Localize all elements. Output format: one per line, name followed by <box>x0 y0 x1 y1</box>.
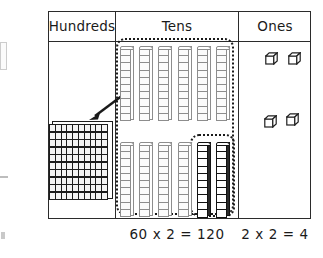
ten-rod-cap <box>120 142 134 146</box>
page-edge-artifact-dash <box>0 176 8 178</box>
ten-rod-unit <box>139 113 150 121</box>
ten-rod-cap <box>120 46 134 50</box>
flat-unit-square <box>79 185 84 191</box>
flat-unit-square <box>91 178 96 184</box>
flat-unit-square <box>79 148 84 154</box>
flat-unit-square <box>91 193 96 199</box>
ten-rod <box>178 46 192 120</box>
flat-unit-square <box>85 140 90 146</box>
flat-unit-square <box>102 193 107 199</box>
ones-unit-cube <box>264 115 277 128</box>
ten-rod-body <box>178 144 189 216</box>
flat-unit-square <box>102 155 107 161</box>
flat-unit-square <box>91 155 96 161</box>
ten-rod-unit <box>178 113 189 121</box>
ten-rod <box>120 46 134 120</box>
ten-rod-cap <box>197 142 211 146</box>
ten-rod-unit <box>158 209 169 217</box>
flat-unit-square <box>56 155 61 161</box>
flat-unit-square <box>62 178 67 184</box>
flat-unit-square <box>62 163 67 169</box>
ten-rod-body <box>139 144 150 216</box>
ten-rod <box>139 46 153 120</box>
flat-unit-square <box>67 178 72 184</box>
page-edge-artifact-box <box>0 42 7 70</box>
ten-rod <box>216 46 230 120</box>
flat-unit-square <box>50 148 55 154</box>
flat-unit-square <box>102 170 107 176</box>
ten-rod-body <box>216 48 227 120</box>
flat-unit-square <box>62 185 67 191</box>
ones-unit-cube <box>265 52 278 65</box>
flat-unit-square <box>56 148 61 154</box>
ones-equation-label: 2 x 2 = 4 <box>239 224 311 244</box>
ten-rod-unit <box>120 209 131 217</box>
flat-unit-square <box>102 185 107 191</box>
column-header-tens: Tens <box>116 13 238 39</box>
ten-rod-unit <box>178 209 189 217</box>
ten-rod-cap <box>197 46 211 50</box>
ten-rod <box>178 142 192 216</box>
flat-unit-square <box>79 155 84 161</box>
flat-unit-square <box>102 163 107 169</box>
flat-unit-square <box>67 163 72 169</box>
ten-rod-unit <box>120 113 131 121</box>
flat-unit-square <box>56 140 61 146</box>
ten-rod-unit <box>216 209 227 218</box>
ten-rod-cap <box>178 142 192 146</box>
ten-rod-cap <box>158 142 172 146</box>
flat-unit-square <box>85 155 90 161</box>
flat-unit-square <box>79 193 84 199</box>
flat-unit-square <box>67 155 72 161</box>
ten-rod-body <box>139 48 150 120</box>
flat-unit-square <box>91 163 96 169</box>
flat-unit-square <box>62 140 67 146</box>
flat-unit-square <box>50 193 55 199</box>
flat-unit-square <box>56 178 61 184</box>
flat-unit-square <box>79 125 84 131</box>
ten-rod <box>158 46 172 120</box>
flat-unit-square <box>102 178 107 184</box>
flat-unit-square <box>62 148 67 154</box>
ten-rod-cap <box>139 142 153 146</box>
flat-unit-square <box>91 170 96 176</box>
flat-unit-square <box>102 133 107 139</box>
ten-rod-dark <box>197 142 211 216</box>
flat-unit-square <box>50 125 55 131</box>
flat-unit-square <box>67 185 72 191</box>
flat-unit-square <box>56 133 61 139</box>
flat-unit-square <box>56 193 61 199</box>
flat-unit-square <box>73 148 78 154</box>
flat-unit-square <box>73 178 78 184</box>
flat-unit-square <box>96 125 101 131</box>
flat-unit-square <box>73 140 78 146</box>
page-edge-artifact-mark <box>1 232 5 239</box>
hundreds-flat-grid <box>49 124 108 200</box>
flat-unit-square <box>50 155 55 161</box>
flat-unit-square <box>67 170 72 176</box>
flat-unit-square <box>50 185 55 191</box>
flat-unit-square <box>62 155 67 161</box>
flat-unit-square <box>73 133 78 139</box>
ten-rod-body <box>158 48 169 120</box>
column-header-hundreds: Hundreds <box>49 13 115 39</box>
flat-unit-square <box>79 178 84 184</box>
column-header-ones: Ones <box>239 13 311 39</box>
ten-rod <box>197 46 211 120</box>
ten-rod-cap <box>178 46 192 50</box>
flat-unit-square <box>85 133 90 139</box>
flat-unit-square <box>73 163 78 169</box>
flat-unit-square <box>91 140 96 146</box>
ten-rod-dark <box>216 142 230 216</box>
ten-rod <box>120 142 134 216</box>
flat-unit-square <box>50 163 55 169</box>
ten-rod-unit <box>197 113 208 121</box>
flat-unit-square <box>91 125 96 131</box>
ten-rod-unit <box>139 209 150 217</box>
flat-unit-square <box>96 170 101 176</box>
ten-rod-unit <box>197 209 208 218</box>
flat-unit-square <box>96 178 101 184</box>
flat-unit-square <box>67 148 72 154</box>
ten-rod-cap <box>216 142 230 146</box>
flat-unit-square <box>79 133 84 139</box>
